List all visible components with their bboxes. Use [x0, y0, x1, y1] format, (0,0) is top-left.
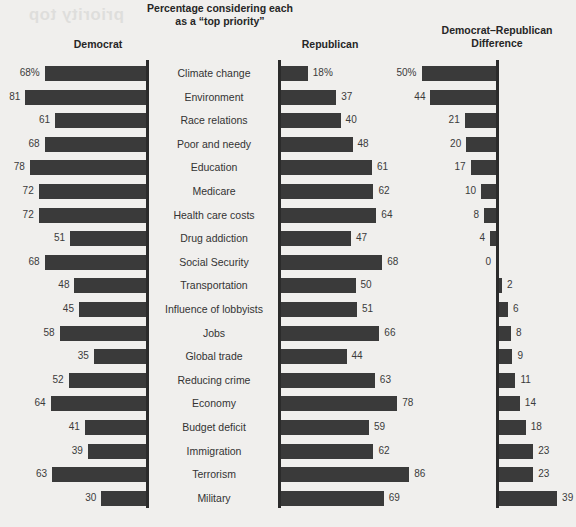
bar-democrat — [45, 255, 146, 270]
value-label-republican: 47 — [356, 230, 367, 246]
value-label-republican: 78 — [402, 395, 413, 411]
bar-difference — [499, 326, 511, 341]
value-label-republican: 61 — [377, 159, 388, 175]
bar-difference — [499, 396, 520, 411]
category-label: Poor and needy — [156, 136, 272, 152]
category-label: Jobs — [156, 325, 272, 341]
bar-difference — [484, 208, 496, 223]
value-label-democrat: 39 — [72, 443, 83, 459]
value-label-republican: 69 — [389, 490, 400, 506]
value-label-democrat: 72 — [23, 183, 34, 199]
bar-democrat — [51, 396, 146, 411]
value-label-republican: 66 — [384, 325, 395, 341]
bar-difference — [466, 137, 496, 152]
value-label-democrat: 64 — [35, 395, 46, 411]
bar-democrat — [60, 326, 146, 341]
bar-republican — [281, 444, 373, 459]
value-label-republican: 44 — [352, 348, 363, 364]
chart-row: 61Race relations4021 — [0, 110, 576, 134]
category-label: Budget deficit — [156, 419, 272, 435]
category-label: Social Security — [156, 254, 272, 270]
value-label-democrat: 63 — [36, 466, 47, 482]
bar-republican — [281, 90, 336, 105]
bar-democrat — [30, 160, 146, 175]
value-label-democrat: 68 — [29, 136, 40, 152]
bar-republican — [281, 326, 379, 341]
category-label: Terrorism — [156, 466, 272, 482]
bar-republican — [281, 66, 308, 81]
bar-republican — [281, 184, 373, 199]
value-label-democrat: 68% — [20, 65, 40, 81]
category-label: Medicare — [156, 183, 272, 199]
value-label-difference: 17 — [455, 159, 466, 175]
chart-row: 48Transportation502 — [0, 275, 576, 299]
value-label-difference: 14 — [525, 395, 536, 411]
value-label-difference: 2 — [507, 277, 513, 293]
value-label-republican: 37 — [341, 89, 352, 105]
bar-republican — [281, 349, 347, 364]
bar-democrat — [70, 231, 146, 246]
bar-democrat — [94, 349, 146, 364]
value-label-republican: 63 — [380, 372, 391, 388]
bar-democrat — [25, 90, 146, 105]
bar-difference — [499, 491, 557, 506]
chart-row: 81Environment3744 — [0, 87, 576, 111]
category-label: Transportation — [156, 277, 272, 293]
chart-row: 68Poor and needy4820 — [0, 134, 576, 158]
chart-row: 41Budget deficit5918 — [0, 417, 576, 441]
value-label-difference: 11 — [520, 372, 530, 388]
chart-figure: Percentage considering each as a “top pr… — [0, 0, 576, 527]
value-label-difference: 8 — [516, 325, 522, 341]
value-label-democrat: 35 — [78, 348, 89, 364]
value-label-difference: 23 — [538, 443, 549, 459]
category-label: Immigration — [156, 443, 272, 459]
bar-difference — [499, 349, 512, 364]
value-label-democrat: 41 — [69, 419, 80, 435]
chart-title-line-2: as a “top priority” — [128, 15, 312, 28]
category-label: Environment — [156, 89, 272, 105]
bar-republican — [281, 420, 369, 435]
value-label-republican: 68 — [387, 254, 398, 270]
chart-row: 72Health care costs648 — [0, 205, 576, 229]
column-header-democrat: Democrat — [48, 38, 148, 51]
chart-row: 45Influence of lobbyists516 — [0, 299, 576, 323]
value-label-democrat: 61 — [39, 112, 50, 128]
bar-republican — [281, 396, 397, 411]
chart-row: 72Medicare6210 — [0, 181, 576, 205]
bar-difference — [499, 444, 533, 459]
value-label-republican: 48 — [358, 136, 369, 152]
bar-difference — [499, 467, 533, 482]
value-label-republican: 51 — [362, 301, 373, 317]
value-label-difference: 44 — [414, 89, 425, 105]
value-label-difference: 20 — [450, 136, 461, 152]
chart-row: 39Immigration6223 — [0, 441, 576, 465]
value-label-democrat: 72 — [23, 207, 34, 223]
bar-difference — [430, 90, 496, 105]
bar-democrat — [85, 420, 146, 435]
bar-difference — [499, 420, 526, 435]
bar-republican — [281, 255, 382, 270]
value-label-democrat: 52 — [52, 372, 63, 388]
column-header-difference: Democrat–Republican Difference — [424, 24, 570, 49]
value-label-democrat: 68 — [29, 254, 40, 270]
bar-republican — [281, 302, 357, 317]
chart-row: 78Education6117 — [0, 157, 576, 181]
value-label-democrat: 78 — [14, 159, 25, 175]
bar-democrat — [69, 373, 146, 388]
value-label-difference: 50% — [396, 65, 416, 81]
bar-democrat — [88, 444, 146, 459]
value-label-democrat: 30 — [85, 490, 96, 506]
category-label: Reducing crime — [156, 372, 272, 388]
chart-row: 63Terrorism8623 — [0, 464, 576, 488]
bar-democrat — [45, 137, 146, 152]
value-label-democrat: 48 — [58, 277, 69, 293]
bar-democrat — [55, 113, 146, 128]
bar-republican — [281, 231, 351, 246]
chart-row: 68Social Security680 — [0, 252, 576, 276]
value-label-democrat: 58 — [43, 325, 54, 341]
bar-republican — [281, 467, 409, 482]
bar-democrat — [79, 302, 146, 317]
chart-row: 58Jobs668 — [0, 323, 576, 347]
category-label: Military — [156, 490, 272, 506]
category-label: Drug addiction — [156, 230, 272, 246]
